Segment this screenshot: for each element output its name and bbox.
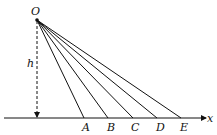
point-label-e: E: [179, 121, 188, 134]
height-label: h: [27, 57, 34, 70]
point-label-b: B: [106, 121, 115, 134]
rays: [37, 20, 181, 118]
point-label-d: D: [155, 121, 165, 134]
origin-label: O: [31, 5, 40, 18]
ray-c: [37, 20, 133, 118]
axis-label: x: [207, 112, 214, 125]
origin-point: [35, 18, 39, 22]
point-label-c: C: [131, 121, 140, 134]
ray-e: [37, 20, 181, 118]
ray-a: [37, 20, 84, 118]
diagram-canvas: O h x A B C D E: [0, 0, 217, 135]
point-label-a: A: [81, 121, 90, 134]
